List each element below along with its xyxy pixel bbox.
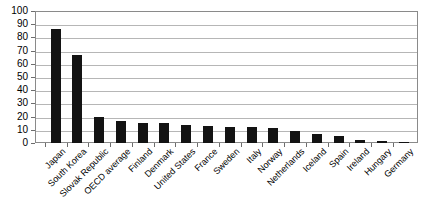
y-axis-tick-label: 20 (17, 112, 28, 122)
bar-slot (219, 11, 241, 143)
bar-slot (197, 11, 219, 143)
x-axis-tick-mark (241, 143, 242, 147)
y-axis-tick-label: 30 (17, 98, 28, 108)
bar-slot (284, 11, 306, 143)
y-axis-tick-label: 50 (17, 72, 28, 82)
bar-slot (132, 11, 154, 143)
bar-slot (45, 11, 67, 143)
bar (334, 136, 344, 143)
y-axis-tick-label: 90 (17, 19, 28, 29)
x-axis-tick-mark (262, 143, 263, 147)
bar (225, 127, 235, 144)
bar (181, 125, 191, 143)
bar (72, 55, 82, 143)
x-axis-tick-mark (284, 143, 285, 147)
bar (247, 127, 257, 143)
x-axis-category-labels: JapanSouth KoreaSlovak RepublicOECD aver… (35, 147, 438, 212)
bar-chart: 0102030405060708090100 JapanSouth KoreaS… (0, 0, 438, 212)
bar (203, 126, 213, 143)
x-axis-tick-mark (45, 143, 46, 147)
bar-slot (393, 11, 415, 143)
x-axis-tick-mark (154, 143, 155, 147)
y-axis-tick-label: 40 (17, 85, 28, 95)
bar-slot (154, 11, 176, 143)
x-axis-tick-mark (328, 143, 329, 147)
y-axis-tick-label: 100 (11, 6, 28, 16)
y-axis-tick-label: 80 (17, 32, 28, 42)
x-axis-tick-mark (349, 143, 350, 147)
y-axis-tick-label: 0 (22, 138, 28, 148)
y-axis: 0102030405060708090100 (0, 0, 35, 154)
x-axis-tick-mark (175, 143, 176, 147)
y-axis-tick-label: 10 (17, 125, 28, 135)
bar (94, 117, 104, 143)
bar-slot (175, 11, 197, 143)
x-axis-tick-mark (219, 143, 220, 147)
bar (159, 123, 169, 143)
bars-layer (35, 11, 418, 143)
bar (116, 121, 126, 143)
bar-slot (110, 11, 132, 143)
bar-slot (241, 11, 263, 143)
bar (138, 123, 148, 143)
bar (268, 128, 278, 143)
x-axis-tick-mark (88, 143, 89, 147)
y-axis-tick-label: 70 (17, 46, 28, 56)
x-axis-tick-mark (393, 143, 394, 147)
bar-slot (88, 11, 110, 143)
x-axis-tick-mark (67, 143, 68, 147)
x-axis-tick-mark (110, 143, 111, 147)
bar (312, 134, 322, 143)
bar-slot (328, 11, 350, 143)
bar (51, 29, 61, 143)
bar-slot (306, 11, 328, 143)
y-axis-tick-mark (31, 143, 35, 144)
x-axis-tick-mark (197, 143, 198, 147)
bar-slot (371, 11, 393, 143)
bar (399, 142, 409, 143)
x-axis-tick-mark (306, 143, 307, 147)
bar (355, 140, 365, 143)
y-axis-tick-label: 60 (17, 59, 28, 69)
x-axis-tick-mark (132, 143, 133, 147)
bar (290, 131, 300, 143)
bar-slot (262, 11, 284, 143)
bar-slot (67, 11, 89, 143)
x-axis-tick-mark (371, 143, 372, 147)
bar-slot (349, 11, 371, 143)
bar (377, 141, 387, 143)
